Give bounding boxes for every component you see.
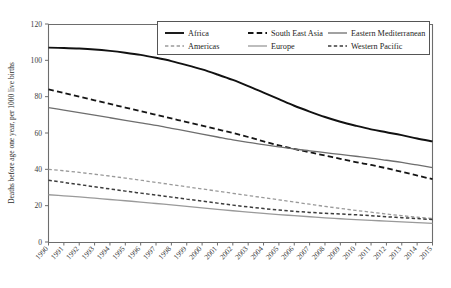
y-tick-label: 20 xyxy=(34,201,42,210)
legend-label-americas: Americas xyxy=(188,42,219,51)
legend-label-eastern-mediterranean: Eastern Mediterranean xyxy=(351,29,425,38)
legend-label-europe: Europe xyxy=(271,42,295,51)
y-axis-title: Deaths before age one year, per 1000 liv… xyxy=(7,62,16,204)
legend-label-africa: Africa xyxy=(188,29,209,38)
chart-legend: AfricaSouth East AsiaEastern Mediterrane… xyxy=(158,22,430,55)
y-tick-label: 60 xyxy=(34,129,42,138)
y-tick-label: 80 xyxy=(34,92,42,101)
y-tick-label: 40 xyxy=(34,165,42,174)
legend-label-south-east-asia: South East Asia xyxy=(271,29,323,38)
infant-mortality-line-chart: 020406080100120 199019911992199319941995… xyxy=(0,0,451,288)
y-tick-label: 100 xyxy=(31,56,43,65)
legend-label-western-pacific: Western Pacific xyxy=(351,42,403,51)
y-tick-label: 120 xyxy=(31,20,43,29)
